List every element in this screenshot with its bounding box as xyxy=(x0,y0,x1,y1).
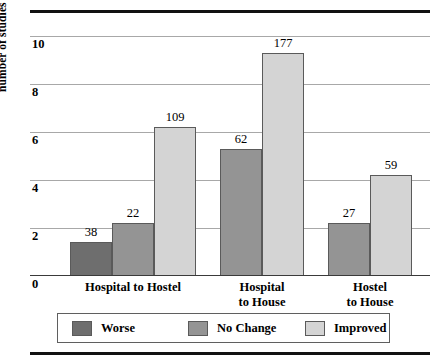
bar-no-change-3[interactable] xyxy=(220,149,262,276)
bar-value-label-4: 177 xyxy=(250,37,316,50)
bar-value-label-6: 59 xyxy=(358,159,424,172)
plot-area: 3822109621772759 0246810 xyxy=(30,22,430,276)
category-label-0: Hospital to Hostel xyxy=(63,280,203,295)
y-tick-label-0: 0 xyxy=(32,278,56,291)
y-tick-label-4: 4 xyxy=(32,182,56,195)
gridline-8 xyxy=(30,84,430,85)
x-axis-baseline xyxy=(30,275,430,276)
top-rule xyxy=(30,10,430,13)
bar-no-change-1[interactable] xyxy=(112,223,154,276)
y-axis-title: number of studies xyxy=(0,2,8,92)
y-tick-label-8: 8 xyxy=(32,86,56,99)
bar-improved-4[interactable] xyxy=(262,53,304,276)
legend-item-improved[interactable]: Improved xyxy=(305,320,387,337)
gridline-10 xyxy=(30,36,430,37)
y-tick-label-10: 10 xyxy=(32,38,56,51)
legend-label: Improved xyxy=(334,321,387,336)
bar-improved-6[interactable] xyxy=(370,175,412,276)
y-tick-label-6: 6 xyxy=(32,134,56,147)
y-tick-label-2: 2 xyxy=(32,230,56,243)
legend-swatch-icon xyxy=(72,321,92,336)
legend-item-no-change[interactable]: No Change xyxy=(188,320,276,337)
legend-swatch-icon xyxy=(188,321,208,336)
chart-legend: WorseNo ChangeImproved xyxy=(57,313,390,343)
legend-item-worse[interactable]: Worse xyxy=(72,320,135,337)
bar-improved-2[interactable] xyxy=(154,127,196,276)
bar-chart-figure: number of studies 3822109621772759 02468… xyxy=(0,0,437,363)
legend-swatch-icon xyxy=(305,321,325,336)
bottom-rule xyxy=(30,352,430,355)
legend-label: Worse xyxy=(101,321,135,336)
bar-value-label-2: 109 xyxy=(142,111,208,124)
category-label-2: Hostel to House xyxy=(300,280,437,309)
bar-worse-0[interactable] xyxy=(70,242,112,276)
bar-no-change-5[interactable] xyxy=(328,223,370,276)
legend-label: No Change xyxy=(217,321,276,336)
